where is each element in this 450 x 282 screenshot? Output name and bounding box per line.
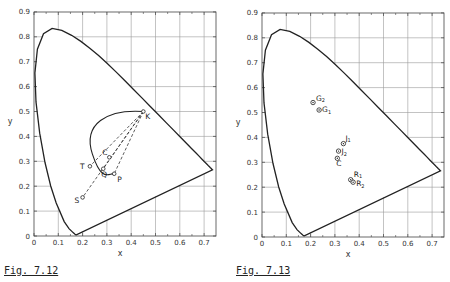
x-tick-label: 0.6	[402, 240, 414, 248]
x-tick-label: 0.1	[281, 240, 292, 248]
y-tick-label: 0.2	[19, 183, 30, 191]
x-tick-label: 0.5	[150, 239, 161, 247]
point-label-Q: Q	[101, 170, 107, 179]
x-tick-label: 0.7	[427, 240, 438, 248]
x-tick-label: 0.2	[77, 239, 88, 247]
point-label-K: K	[145, 112, 151, 121]
x-tick-label: 0.3	[101, 239, 112, 247]
x-tick-label: 0	[32, 239, 36, 247]
y-tick-label: 0.3	[247, 159, 258, 167]
y-tick-label: 0.9	[247, 9, 258, 17]
spectrum-locus	[35, 28, 213, 234]
y-tick-label: 0.2	[247, 184, 258, 192]
y-tick-label: 0.7	[247, 59, 258, 67]
point-dot	[338, 150, 339, 151]
x-tick-label: 0.3	[329, 240, 340, 248]
point-label-J2: J2	[341, 147, 347, 157]
dashed-construction-line	[103, 112, 143, 169]
point-T	[88, 164, 92, 168]
y-tick-label: 0.4	[19, 133, 31, 141]
plot-frame	[262, 13, 444, 237]
point-label-G2: G2	[316, 94, 325, 104]
point-label-R2: R2	[356, 179, 364, 189]
point-label-G1: G1	[322, 105, 331, 115]
x-tick-label: 0.5	[378, 240, 389, 248]
x-tick-label: 0	[260, 240, 264, 248]
y-tick-label: 0.3	[19, 158, 30, 166]
y-tick-label: 0	[254, 234, 258, 242]
y-axis-title: y	[8, 117, 13, 126]
y-tick-label: 0.8	[247, 34, 258, 42]
dashed-construction-line	[114, 112, 143, 174]
fig-7-12-plot: 00.10.20.30.40.50.60.700.10.20.30.40.50.…	[8, 8, 217, 258]
point-S	[81, 196, 85, 200]
point-label-S: S	[75, 196, 80, 205]
x-tick-label: 0.2	[305, 240, 316, 248]
x-tick-label: 0.1	[53, 239, 64, 247]
y-axis-title: y	[236, 118, 241, 127]
point-label-J1: J1	[344, 134, 350, 144]
point-C	[108, 156, 112, 160]
dashed-construction-line	[90, 112, 143, 167]
y-tick-label: 0.1	[19, 208, 30, 216]
x-axis-title: x	[118, 249, 123, 258]
planckian-locus	[90, 111, 143, 175]
point-label-R1: R1	[354, 170, 362, 180]
point-dot	[350, 179, 351, 180]
y-tick-label: 0.5	[247, 109, 258, 117]
point-dot	[312, 102, 313, 103]
point-label-T: T	[79, 162, 85, 171]
grid-lines	[262, 13, 444, 237]
point-dot	[352, 182, 353, 183]
y-tick-label: 0.1	[247, 209, 258, 217]
y-tick-label: 0.6	[247, 84, 259, 92]
y-tick-label: 0.7	[19, 58, 30, 66]
point-dot	[343, 143, 344, 144]
point-P	[112, 172, 116, 176]
y-tick-label: 0.5	[19, 108, 30, 116]
point-label-C: C	[102, 148, 107, 157]
x-tick-label: 0.4	[354, 240, 366, 248]
y-tick-label: 0.4	[247, 134, 259, 142]
plot-frame	[34, 12, 216, 236]
x-tick-label: 0.7	[199, 239, 210, 247]
y-tick-label: 0	[26, 233, 30, 241]
spectrum-locus	[263, 29, 441, 235]
point-label-P: P	[117, 175, 122, 184]
figure-caption-7-12: Fig. 7.12	[4, 265, 58, 276]
fig-7-13-plot: 00.10.20.30.40.50.60.700.10.20.30.40.50.…	[236, 9, 445, 259]
y-tick-label: 0.9	[19, 8, 30, 16]
y-tick-label: 0.8	[19, 33, 30, 41]
point-label-C: C	[336, 159, 341, 168]
grid-lines	[34, 12, 216, 236]
x-tick-label: 0.4	[126, 239, 138, 247]
y-tick-label: 0.6	[19, 83, 31, 91]
chart-canvas: 00.10.20.30.40.50.60.700.10.20.30.40.50.…	[0, 0, 450, 282]
point-dot	[318, 109, 319, 110]
x-axis-title: x	[346, 250, 351, 259]
x-tick-label: 0.6	[174, 239, 186, 247]
figure-caption-7-13: Fig. 7.13	[236, 265, 290, 276]
